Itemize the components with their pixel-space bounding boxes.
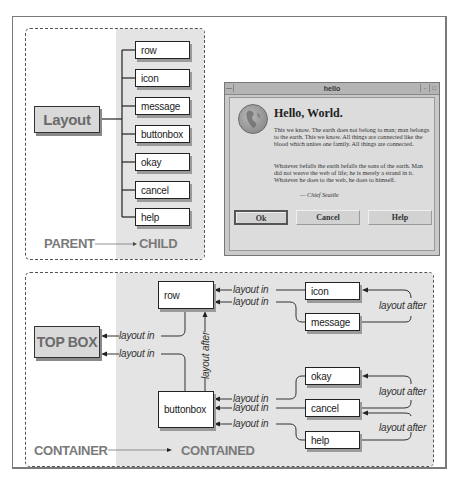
window-paragraph-2: Whatever befalls the earth befalls the s…: [274, 162, 432, 183]
maximize-icon[interactable]: □: [429, 84, 438, 92]
child-node-help: help: [135, 208, 190, 226]
buttonbox-node: buttonbox: [158, 391, 214, 428]
child-node-okay: okay: [135, 153, 190, 171]
help-button[interactable]: Help: [368, 210, 432, 225]
label-layout-after-help: layout after: [379, 422, 426, 433]
row-node: row: [158, 281, 214, 309]
top-box-node: TOP BOX: [34, 326, 100, 358]
child-node-row: row: [135, 41, 190, 59]
label-layout-after-buttonbox: layout after: [200, 332, 211, 379]
window-body: Hello, World. This we know. The earth do…: [229, 97, 435, 251]
label-layout-in-help: layout in: [233, 418, 268, 429]
label-layout-after-cancel: layout after: [379, 386, 426, 397]
hello-window: — hello · □ Hello, World. This we know. …: [224, 82, 440, 256]
window-signature: — Chief Seattle: [300, 191, 339, 198]
child-node-icon: icon: [135, 69, 190, 87]
window-menu-icon[interactable]: —: [225, 84, 234, 92]
window-paragraph-1: This we know. The earth does not belong …: [274, 126, 432, 147]
container-panel: [25, 272, 434, 467]
child-node-buttonbox: buttonbox: [135, 125, 190, 143]
cancel-node: cancel: [305, 399, 360, 417]
window-title: hello: [324, 85, 340, 92]
label-layout-in-cancel: layout in: [233, 402, 268, 413]
child-node-message: message: [135, 97, 190, 115]
child-node-cancel: cancel: [135, 181, 190, 199]
label-layout-in-icon: layout in: [233, 284, 268, 295]
layout-node: Layout: [34, 106, 100, 133]
help-node: help: [305, 431, 360, 449]
caption-container: CONTAINER: [34, 443, 108, 458]
globe-icon: [238, 104, 268, 134]
ok-button[interactable]: Ok: [234, 210, 288, 225]
message-node: message: [305, 313, 360, 331]
window-titlebar: — hello · □: [225, 83, 439, 95]
caption-child: CHILD: [139, 236, 177, 251]
window-heading: Hello, World.: [274, 106, 343, 121]
cancel-button[interactable]: Cancel: [296, 210, 360, 225]
label-layout-after-message: layout after: [379, 300, 426, 311]
okay-node: okay: [305, 367, 360, 385]
label-layout-in-buttonbox-top: layout in: [119, 348, 154, 359]
minimize-icon[interactable]: ·: [420, 84, 429, 92]
caption-parent: PARENT: [44, 236, 95, 251]
caption-contained: CONTAINED: [181, 443, 255, 458]
icon-node: icon: [305, 282, 360, 300]
globe-continents: [239, 105, 267, 133]
label-layout-in-message: layout in: [233, 296, 268, 307]
label-layout-in-row-top: layout in: [119, 330, 154, 341]
